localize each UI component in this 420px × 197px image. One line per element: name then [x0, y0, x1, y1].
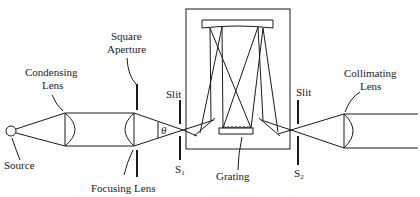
- label-aperture: Aperture: [107, 43, 146, 55]
- label-collimating-lens: Lens: [360, 80, 381, 92]
- label-collimating: Collimating: [344, 67, 397, 79]
- label-slit-1: Slit: [166, 88, 181, 100]
- monochromator-diagram: Condensing Lens Source Square Aperture F…: [0, 0, 420, 197]
- label-grating: Grating: [216, 170, 250, 182]
- label-theta: θ: [161, 124, 167, 136]
- source-icon: [6, 126, 16, 136]
- label-source: Source: [4, 159, 35, 171]
- label-slit-2: Slit: [296, 86, 311, 98]
- focusing-lens: [125, 113, 134, 146]
- label-condensing: Condensing: [25, 66, 78, 78]
- label-s2: S2: [294, 167, 304, 181]
- collimating-lens: [344, 114, 353, 148]
- label-s1: S1: [175, 163, 185, 177]
- concave-mirror: [202, 20, 273, 28]
- label-square: Square: [111, 30, 142, 42]
- label-focusing-lens: Focusing Lens: [91, 182, 155, 194]
- grating: [219, 128, 253, 134]
- condensing-lens: [65, 113, 75, 146]
- label-condensing-lens: Lens: [42, 79, 63, 91]
